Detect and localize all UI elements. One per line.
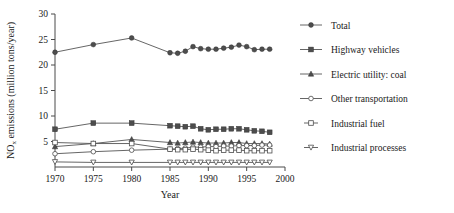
data-point <box>206 127 211 132</box>
data-point <box>221 148 226 153</box>
data-point <box>237 43 242 48</box>
x-tick-label: 1980 <box>122 174 141 184</box>
data-point <box>229 148 234 153</box>
data-point <box>267 47 272 52</box>
x-axis-title: Year <box>161 189 180 200</box>
chart-canvas: 510152025301970197519801985199019952000Y… <box>0 0 454 213</box>
data-point <box>260 47 265 52</box>
data-point <box>168 123 173 128</box>
legend-label: Highway vehicles <box>331 45 400 55</box>
nox-emissions-chart: 510152025301970197519801985199019952000Y… <box>0 0 454 213</box>
legend-marker <box>309 47 314 52</box>
data-point <box>129 36 134 41</box>
legend-marker <box>309 96 314 101</box>
data-point <box>91 141 96 146</box>
data-point <box>129 141 134 146</box>
data-point <box>198 126 203 131</box>
data-point <box>183 147 188 152</box>
x-tick-label: 1985 <box>161 174 180 184</box>
data-point <box>168 147 173 152</box>
legend-label: Industrial fuel <box>331 119 385 129</box>
legend-marker <box>309 23 314 28</box>
data-point <box>206 47 211 52</box>
data-point <box>244 143 249 148</box>
data-point <box>175 124 180 129</box>
data-point <box>91 149 96 154</box>
legend-marker <box>309 121 314 126</box>
data-point <box>53 140 58 145</box>
y-tick-label: 15 <box>39 86 49 96</box>
data-point <box>229 126 234 131</box>
data-point <box>183 49 188 54</box>
data-point <box>191 44 196 49</box>
data-point <box>129 121 134 126</box>
data-point <box>53 50 58 55</box>
x-tick-label: 1990 <box>199 174 218 184</box>
legend-item-highway-vehicles[interactable]: Highway vehicles <box>300 45 400 55</box>
data-point <box>214 127 219 132</box>
data-point <box>229 45 234 50</box>
data-point <box>175 51 180 56</box>
legend-item-other-transportation[interactable]: Other transportation <box>300 94 408 104</box>
y-tick-label: 5 <box>43 137 48 147</box>
data-point <box>244 127 249 132</box>
data-point <box>129 148 134 153</box>
data-point <box>206 148 211 153</box>
data-point <box>252 47 257 52</box>
series-total <box>53 36 272 56</box>
data-point <box>221 127 226 132</box>
data-point <box>267 143 272 148</box>
x-tick-label: 1970 <box>46 174 65 184</box>
legend-label: Industrial processes <box>331 143 406 153</box>
data-point <box>252 148 257 153</box>
data-point <box>252 128 257 133</box>
data-point <box>244 148 249 153</box>
data-point <box>237 143 242 148</box>
x-tick-label: 1975 <box>84 174 103 184</box>
x-tick-label: 2000 <box>276 174 295 184</box>
legend-label: Electric utility: coal <box>331 70 407 80</box>
data-point <box>260 129 265 134</box>
y-tick-label: 25 <box>39 35 49 45</box>
legend-item-electric-utility-coal[interactable]: Electric utility: coal <box>300 70 407 80</box>
data-point <box>237 148 242 153</box>
data-point <box>214 47 219 52</box>
x-tick-label: 1995 <box>237 174 256 184</box>
data-point <box>191 147 196 152</box>
data-point <box>183 124 188 129</box>
y-tick-label: 10 <box>39 111 49 121</box>
legend-label: Other transportation <box>331 94 408 104</box>
legend-item-industrial-fuel[interactable]: Industrial fuel <box>304 119 385 129</box>
data-point <box>191 124 196 129</box>
y-axis-title: NOx emissions (million tons/year) <box>5 22 18 159</box>
data-point <box>244 44 249 49</box>
legend-item-total[interactable]: Total <box>300 21 351 31</box>
data-point <box>168 50 173 55</box>
data-point <box>252 143 257 148</box>
data-point <box>267 148 272 153</box>
data-point <box>267 130 272 135</box>
legend-item-industrial-processes[interactable]: Industrial processes <box>304 143 406 153</box>
data-point <box>198 147 203 152</box>
data-point <box>198 46 203 51</box>
series-industrial-processes <box>52 160 272 165</box>
data-point <box>91 42 96 47</box>
data-point <box>221 46 226 51</box>
data-point <box>214 148 219 153</box>
data-point <box>53 151 58 156</box>
y-tick-label: 20 <box>39 60 49 70</box>
data-point <box>175 147 180 152</box>
data-point <box>260 143 265 148</box>
data-point <box>53 127 58 132</box>
y-tick-label: 30 <box>39 9 49 19</box>
data-point <box>91 121 96 126</box>
legend-label: Total <box>331 21 351 31</box>
data-point <box>260 148 265 153</box>
data-point <box>237 126 242 131</box>
series-highway-vehicles <box>53 121 272 135</box>
data-point <box>190 139 195 144</box>
